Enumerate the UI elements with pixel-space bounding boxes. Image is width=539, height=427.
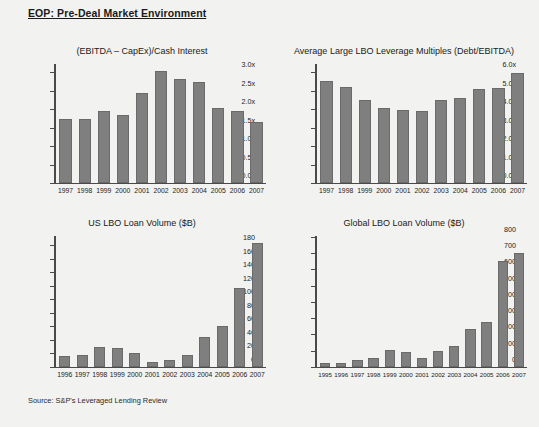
- x-axis-labels: 1997199819992000200120022003200420052006…: [56, 187, 266, 194]
- bar: [98, 111, 110, 182]
- x-tick-label: 2007: [511, 371, 527, 378]
- y-tick: [50, 353, 54, 354]
- bar-slot: [209, 64, 228, 183]
- bar-slot: [113, 64, 132, 183]
- y-tick: [50, 245, 54, 246]
- x-tick-label: 2001: [393, 187, 412, 194]
- x-tick-label: 2002: [412, 187, 431, 194]
- bar-slot: [94, 64, 113, 183]
- bar-slot: [196, 236, 214, 367]
- chart-panel-large-lbo-leverage-multiples: Average Large LBO Leverage Multiples (De…: [275, 46, 533, 206]
- bar: [435, 100, 447, 182]
- bar: [94, 347, 105, 366]
- chart-title: US LBO Loan Volume ($B): [14, 218, 270, 228]
- y-tick: [311, 269, 315, 270]
- x-tick-label: 2002: [430, 371, 446, 378]
- bar-slot: [355, 64, 374, 183]
- x-tick-label: 1998: [75, 187, 94, 194]
- x-axis: [315, 367, 527, 369]
- y-tick: [50, 109, 54, 110]
- bar: [359, 100, 371, 183]
- bar: [320, 81, 332, 182]
- x-tick-label: 2006: [231, 371, 249, 378]
- bar: [212, 108, 224, 183]
- x-tick-label: 1997: [56, 187, 75, 194]
- bar: [199, 337, 210, 366]
- x-tick-label: 2000: [113, 187, 132, 194]
- bar-slot: [349, 236, 365, 367]
- bar: [77, 355, 88, 366]
- y-tick: [311, 302, 315, 303]
- bar: [252, 243, 263, 367]
- bar: [129, 353, 140, 366]
- y-tick: [311, 367, 315, 368]
- x-tick-label: 2006: [489, 187, 508, 194]
- x-tick-label: 1999: [109, 371, 127, 378]
- y-tick: [50, 286, 54, 287]
- y-tick: [50, 259, 54, 260]
- x-axis: [54, 367, 266, 369]
- x-tick-label: 1998: [336, 187, 355, 194]
- y-tick: [50, 91, 54, 92]
- bar-slot: [398, 236, 414, 367]
- y-tick-label: 800: [504, 224, 516, 233]
- bar-slot: [228, 64, 247, 183]
- bar-slot: [109, 236, 127, 367]
- x-tick-label: 2000: [126, 371, 144, 378]
- bar: [511, 73, 523, 182]
- bar-slot: [511, 236, 527, 367]
- bar-slot: [470, 64, 489, 183]
- bar-slot: [451, 64, 470, 183]
- x-tick-label: 1998: [365, 371, 381, 378]
- bar-slot: [317, 236, 333, 367]
- y-tick: [311, 253, 315, 254]
- bar-slot: [231, 236, 249, 367]
- bar: [147, 362, 158, 367]
- x-tick-label: 1997: [349, 371, 365, 378]
- bar: [416, 111, 428, 182]
- plot-area: 0.0x1.0x2.0x3.0x4.0x5.0x6.0x 19971998199…: [315, 64, 527, 184]
- bar: [473, 89, 485, 183]
- x-tick-label: 2003: [179, 371, 197, 378]
- bar-slot: [430, 236, 446, 367]
- x-axis-labels: 1996199719981999200020012002200320042005…: [56, 371, 266, 378]
- x-axis: [54, 183, 266, 185]
- bar-slot: [365, 236, 381, 367]
- x-tick-label: 1996: [56, 371, 74, 378]
- bar-slot: [132, 64, 151, 183]
- chart-panel-global-lbo-loan-volume: Global LBO Loan Volume ($B) 010020030040…: [275, 218, 533, 390]
- bar-slot: [171, 64, 190, 183]
- slide-canvas: EOP: Pre-Deal Market Environment (EBITDA…: [0, 0, 539, 427]
- bar-slot: [249, 236, 267, 367]
- y-tick: [50, 367, 54, 368]
- bar: [368, 358, 378, 367]
- bar-slot: [462, 236, 478, 367]
- bar-series: [56, 64, 266, 183]
- y-tick: [311, 334, 315, 335]
- bar: [234, 288, 245, 367]
- bar-slot: [75, 64, 94, 183]
- bar-slot: [56, 236, 74, 367]
- plot-area: 0100200300400500600700800 19951996199719…: [315, 236, 527, 368]
- bar: [231, 111, 243, 182]
- bar-slot: [214, 236, 232, 367]
- bar-slot: [489, 64, 508, 183]
- bar-slot: [382, 236, 398, 367]
- x-tick-label: 1995: [317, 371, 333, 378]
- x-tick-label: 2003: [446, 371, 462, 378]
- bar: [193, 82, 205, 182]
- x-tick-label: 2004: [462, 371, 478, 378]
- x-tick-label: 2002: [161, 371, 179, 378]
- bar-slot: [508, 64, 527, 183]
- bar-slot: [446, 236, 462, 367]
- x-tick-label: 2006: [495, 371, 511, 378]
- bar: [182, 355, 193, 366]
- bar-slot: [393, 64, 412, 183]
- x-tick-label: 2001: [132, 187, 151, 194]
- y-tick: [311, 146, 315, 147]
- x-tick-label: 2004: [196, 371, 214, 378]
- x-tick-label: 1999: [382, 371, 398, 378]
- bar: [397, 110, 409, 183]
- page-title: EOP: Pre-Deal Market Environment: [28, 7, 206, 19]
- x-tick-label: 2004: [451, 187, 470, 194]
